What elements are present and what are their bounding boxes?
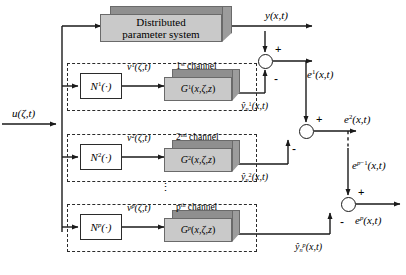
error-2-label: e2(x,t) [344,114,370,125]
channel-2-nonlinear-label: N2(·) [91,151,112,163]
plant-block-front-face: Distributed parameter system [100,14,222,42]
channel-2-linear-label: G2(x,ζ,z) [181,154,215,165]
channel-1-block-front-face: G1(x,ζ,z) [164,77,232,101]
channel-p-header-label: pth channel [176,203,217,213]
channel-2-estimate-label: ŷn2(x,t) [241,172,268,183]
summing-junction-1-minus-sign: - [274,73,278,85]
channel-p-nonlinear-block: Np(·) [80,214,122,240]
channel-p-linear-block: Gp(x,ζ,z) [164,210,240,242]
error-p-label: ep(x,t) [355,215,381,226]
summing-junction-p-minus-sign: - [340,216,344,228]
channel-p-estimate-label: ŷnp(x,t) [295,242,322,253]
plant-label-line1: Distributed [136,16,186,28]
summing-junction-2 [299,124,314,139]
summing-junction-1 [258,54,273,69]
channel-p-intermediate-label: vp(ζ,t) [127,203,151,213]
channel-p-block-side-face [232,210,240,242]
summing-junction-p-plus-sign: + [358,187,364,198]
channel-2-intermediate-label: v2(ζ,t) [127,133,151,143]
channel-1-linear-label: G1(x,ζ,z) [181,83,215,94]
block-diagram: ⋮ Distributed parameter system N1(·) v1(… [0,0,406,275]
channel-1-nonlinear-block: N1(·) [80,73,122,99]
summing-junction-1-plus-sign: + [275,44,281,55]
channel-p-block-front-face: Gp(x,ζ,z) [164,218,232,242]
plant-label-line2: parameter system [122,28,199,40]
summing-junction-2-minus-sign: - [292,143,296,155]
channel-p-linear-label: Gp(x,ζ,z) [181,224,215,235]
error-p-minus-1-label: ep−1(x,t) [352,160,386,171]
channel-2-header-label: 2nd channel [176,133,219,143]
channel-2-linear-block: G2(x,ζ,z) [164,140,240,172]
output-signal-label: y(x,t) [265,10,288,21]
channel-1-intermediate-label: v1(ζ,t) [127,62,151,72]
error-1-label: e1(x,t) [307,69,333,80]
channel-2-nonlinear-block: N2(·) [80,144,122,170]
channel-p-nonlinear-label: Np(·) [91,221,112,233]
plant-block-side-face [222,6,232,42]
channel-1-estimate-label: ŷn1(x,t) [241,101,268,112]
channel-2-block-front-face: G2(x,ζ,z) [164,148,232,172]
channel-2-block-side-face [232,140,240,172]
input-signal-label: u(ζ,t) [12,108,35,119]
channel-ellipsis: ⋮ [160,186,171,189]
channel-1-block-side-face [232,69,240,101]
distributed-parameter-system-block: Distributed parameter system [100,6,232,42]
channel-1-nonlinear-label: N1(·) [91,80,112,92]
summing-junction-2-plus-sign: + [316,114,322,125]
channel-1-linear-block: G1(x,ζ,z) [164,69,240,101]
channel-1-header-label: 1st channel [176,62,217,72]
summing-junction-p [341,197,356,212]
